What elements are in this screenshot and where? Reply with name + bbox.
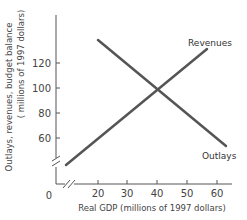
- x-tick-50: 50: [181, 188, 194, 199]
- y-tick-60: 60: [38, 133, 51, 144]
- y-tick-80: 80: [38, 108, 51, 119]
- y-tick-120: 120: [32, 58, 51, 69]
- y-tick-100: 100: [32, 83, 51, 94]
- revenues-line: [66, 49, 207, 165]
- outlays-label: Outlays: [202, 151, 237, 161]
- revenues-label: Revenues: [188, 38, 232, 48]
- x-tick-20: 20: [92, 188, 105, 199]
- x-axis-label: Real GDP (millions of 1997 dollars): [78, 203, 226, 213]
- x-tick-40: 40: [151, 188, 164, 199]
- x-tick-30: 30: [121, 188, 134, 199]
- y-axis-label-line1: Outlays, revenues, budget balance: [4, 23, 14, 172]
- outlays-line: [98, 40, 226, 146]
- x-ticks: [98, 180, 217, 184]
- x-tick-60: 60: [211, 188, 224, 199]
- chart: 120 100 80 60 0 20 30 40 50 60 Real GDP …: [0, 0, 247, 220]
- y-ticks: [56, 63, 60, 138]
- origin-label: 0: [46, 190, 52, 201]
- y-axis-label-line2: ( millions of 1997 dollars): [16, 10, 26, 118]
